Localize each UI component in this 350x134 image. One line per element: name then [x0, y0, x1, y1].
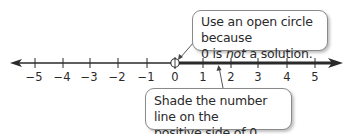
callout-open-circle-note: Use an open circle because 0 is not a so… — [192, 10, 328, 51]
callout-top-text: 0 is — [201, 46, 226, 61]
callout-top-line1: Use an open circle because — [201, 14, 327, 46]
tick-label: −1 — [138, 70, 155, 84]
callout-top-emphasis: not — [226, 46, 246, 61]
callout-bottom-line2: positive side of 0. — [154, 125, 291, 134]
tick-label: 2 — [227, 70, 234, 84]
callout-shade-note: Shade the number line on the positive si… — [145, 88, 292, 130]
tick-label: 3 — [254, 70, 261, 84]
tick-label: −3 — [81, 70, 98, 84]
tick-label: −4 — [54, 70, 71, 84]
tick-label: −5 — [26, 70, 43, 84]
callout-bottom-line1: Shade the number line on the — [154, 93, 291, 125]
callout-top-line2: 0 is not a solution. — [201, 46, 327, 62]
tick-label: 4 — [283, 70, 290, 84]
tick-label: 0 — [171, 70, 178, 84]
pointer-arrowhead-bottom-icon — [217, 65, 222, 71]
tick-labels: −5 −4 −3 −2 −1 0 1 2 3 4 5 — [26, 70, 319, 84]
callout-top-text: a solution. — [246, 46, 313, 61]
tick-label: 1 — [199, 70, 206, 84]
tick-label: −2 — [109, 70, 126, 84]
tick-label: 5 — [311, 70, 318, 84]
